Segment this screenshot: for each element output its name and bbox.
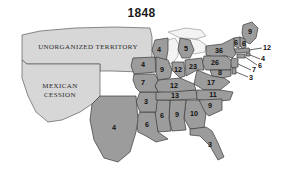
state-connecticut [237,54,245,58]
ev-label-massachusetts: 12 [263,43,271,52]
ev-label-ohio: 23 [189,62,197,71]
ev-label-wisconsin: 4 [157,45,161,54]
state-massachusetts [234,48,250,53]
unorganized-territory-label: UNORGANIZED TERRITORY [38,43,138,51]
us-map-svg: 9 6 6 12 4 6 36 7 26 3 8 17 11 9 10 3 9 … [0,0,283,186]
ev-label-northcarolina: 11 [209,90,217,99]
ev-label-indiana: 12 [174,65,182,74]
ev-label-newhampshire: 6 [242,39,246,48]
ev-label-louisiana: 6 [145,120,149,129]
ev-label-florida: 3 [208,140,212,149]
ev-label-georgia: 10 [190,109,198,118]
ev-label-michigan: 5 [184,44,188,53]
ev-label-delaware: 3 [249,73,253,82]
ev-label-maryland: 8 [218,68,222,77]
state-florida [190,127,224,160]
mexican-cession-label-line2: CESSION [44,91,76,99]
mexican-cession-label-line1: MEXICAN [42,82,77,90]
ev-label-vermont: 6 [234,38,238,47]
leader-line-newjersey [238,64,251,70]
electoral-map-figure: 1848 [0,0,283,186]
leader-line-rhodeisland [250,55,260,59]
ev-label-maine: 9 [248,27,252,36]
ev-label-iowa: 4 [141,60,145,69]
ev-label-arkansas: 3 [144,97,148,106]
leader-line-delaware [236,72,248,77]
ev-label-kentucky: 12 [170,81,178,90]
ev-label-newyork: 36 [215,46,223,55]
leader-line-connecticut [245,57,257,65]
ev-label-virginia: 17 [207,78,215,87]
state-rhodeisland [246,53,250,56]
state-delaware [232,68,236,74]
ev-label-mississippi: 6 [160,111,164,120]
leader-line-massachusetts [249,48,262,50]
ev-label-southcarolina: 9 [208,101,212,110]
state-missouri [133,74,158,92]
ev-label-tennessee: 13 [171,91,179,100]
ev-label-illinois: 9 [160,65,164,74]
ev-label-missouri: 7 [141,78,145,87]
lake-superior-shape [168,28,206,39]
ev-label-alabama: 9 [175,110,179,119]
ev-label-pennsylvania: 26 [211,58,219,67]
ev-label-texas: 4 [112,123,116,132]
ev-label-connecticut: 6 [258,61,262,70]
